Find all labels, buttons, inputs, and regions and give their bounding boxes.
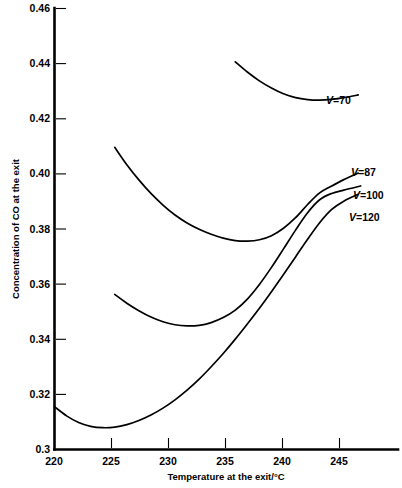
chart-container: 0.46 0.44 0.42 0.40 0.38 0.36 0.34 0.32 … [0,0,402,488]
x-axis-title: Temperature at the exit/°C [167,471,284,482]
series-label-v120: V=120 [349,211,380,223]
y-tick-label: 0.36 [30,278,51,290]
series-curves [55,62,361,428]
series-label-v100: V=100 [353,189,384,201]
x-tick-label: 230 [159,455,177,467]
y-axis-tick-labels: 0.46 0.44 0.42 0.40 0.38 0.36 0.34 0.32 … [30,2,51,455]
series-label-v87: V=87 [351,166,376,178]
y-tick-label: 0.42 [30,112,51,124]
y-axis-ticks [56,9,66,395]
y-tick-label: 0.34 [30,333,51,345]
x-tick-label: 225 [102,455,120,467]
y-tick-label: 0.46 [30,2,51,14]
curve-v87 [115,147,358,241]
series-label-v70: V=70 [326,94,351,106]
chart-plot: 0.46 0.44 0.42 0.40 0.38 0.36 0.34 0.32 … [0,0,402,488]
x-tick-label: 220 [45,455,63,467]
x-tick-label: 240 [273,455,291,467]
series-label-v87-value: =87 [358,166,376,178]
y-tick-label: 0.32 [30,388,51,400]
series-label-v70-value: =70 [333,94,351,106]
curve-v120 [55,194,359,427]
y-tick-label: 0.3 [35,443,50,455]
series-labels: V=70 V=87 V=100 V=120 [326,94,384,223]
y-tick-label: 0.38 [30,223,51,235]
x-tick-label: 245 [330,455,348,467]
y-tick-label: 0.44 [30,57,51,69]
y-axis-title: Concentration of CO at the exit [10,158,21,299]
x-tick-label: 235 [216,455,234,467]
series-label-v100-value: =100 [360,189,384,201]
curve-v100 [115,186,361,326]
series-label-v120-value: =120 [356,211,380,223]
x-axis-tick-labels: 220 225 230 235 240 245 [45,455,348,467]
y-tick-label: 0.40 [30,167,51,179]
x-axis-ticks [112,438,340,448]
